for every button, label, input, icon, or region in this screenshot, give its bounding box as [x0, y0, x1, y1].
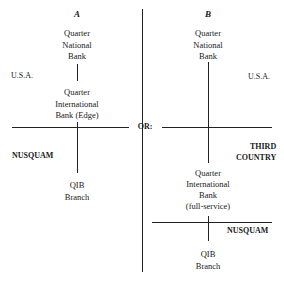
- option-a-link-national-to-edge: [77, 64, 78, 81]
- option-b-region-nusquam: NUSQUAM: [227, 226, 268, 235]
- label-line: Bank: [37, 51, 117, 63]
- center-divider: [142, 9, 143, 272]
- label-line: Bank: [168, 51, 248, 63]
- option-b-qib-branch: QIB Branch: [168, 249, 248, 272]
- label-line: Quarter: [37, 28, 117, 40]
- label-line: National: [168, 40, 248, 52]
- label-line: QIB: [168, 249, 248, 261]
- label-line: Branch: [37, 192, 117, 204]
- option-b-region-usa: U.S.A.: [248, 72, 270, 81]
- option-b-border-line-nusquam: [152, 222, 272, 223]
- label-line: National: [37, 40, 117, 52]
- label-line: Quarter: [168, 168, 248, 179]
- option-a-qib-branch: QIB Branch: [37, 180, 117, 203]
- option-b-international-bank-full-service: Quarter International Bank (full-service…: [168, 168, 248, 212]
- option-b-national-bank: Quarter National Bank: [168, 28, 248, 63]
- label-line: QIB: [37, 180, 117, 192]
- label-line: International: [37, 99, 117, 111]
- option-a-international-bank-edge: Quarter International Bank (Edge): [37, 87, 117, 122]
- option-b-link-qib-to-branch: [208, 216, 209, 241]
- label-line: Branch: [168, 261, 248, 273]
- label-line: COUNTRY: [236, 152, 276, 163]
- option-a-national-bank: Quarter National Bank: [37, 28, 117, 63]
- label-line: THIRD: [236, 141, 276, 152]
- label-line: Bank: [168, 190, 248, 201]
- option-a-header: A: [37, 9, 117, 19]
- label-line: Bank (Edge): [37, 110, 117, 122]
- option-b-region-third-country: THIRD COUNTRY: [236, 141, 276, 163]
- label-line: Quarter: [168, 28, 248, 40]
- option-a-region-nusquam: NUSQUAM: [12, 151, 53, 160]
- label-line: (full-service): [168, 201, 248, 212]
- or-separator-label: OR:: [130, 121, 160, 133]
- label-line: Quarter: [37, 87, 117, 99]
- option-a-link-edge-to-branch: [77, 122, 78, 173]
- label-line: International: [168, 179, 248, 190]
- border-line-right: [162, 127, 272, 128]
- option-b-link-national-to-qib: [208, 62, 209, 163]
- option-a-region-usa: U.S.A.: [11, 71, 33, 80]
- border-line-left: [12, 127, 129, 128]
- option-b-header: B: [168, 9, 248, 19]
